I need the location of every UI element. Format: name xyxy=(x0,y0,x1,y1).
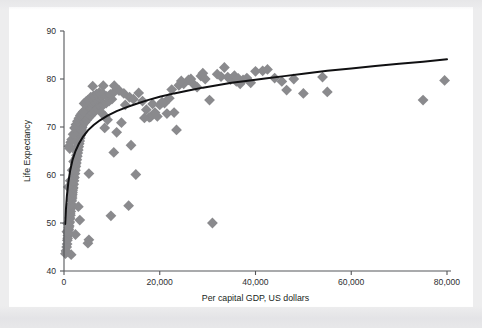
data-point xyxy=(130,169,141,180)
y-tick-label: 40 xyxy=(46,266,56,276)
axis-labels-group: 405060708090020,00040,00060,00080,000Per… xyxy=(22,26,460,303)
data-point xyxy=(116,117,127,128)
data-point xyxy=(74,215,85,226)
data-point xyxy=(83,168,94,179)
data-point xyxy=(162,108,173,119)
y-tick-label: 70 xyxy=(46,122,56,132)
data-point xyxy=(204,95,215,106)
data-point xyxy=(298,88,309,99)
y-tick-label: 90 xyxy=(46,26,56,36)
x-axis-label: Per capital GDP, US dollars xyxy=(202,293,310,303)
data-point xyxy=(418,95,429,106)
x-tick-label: 60,000 xyxy=(338,277,365,287)
data-point xyxy=(126,140,137,151)
y-tick-label: 80 xyxy=(46,74,56,84)
data-point xyxy=(219,62,230,73)
x-tick-label: 40,000 xyxy=(242,277,269,287)
x-tick-label: 0 xyxy=(62,277,67,287)
chart-svg: 405060708090020,00040,00060,00080,000Per… xyxy=(0,0,482,328)
data-point xyxy=(439,75,450,86)
x-tick-label: 80,000 xyxy=(434,277,461,287)
y-tick-label: 50 xyxy=(46,218,56,228)
data-point xyxy=(106,210,117,221)
data-point xyxy=(207,218,218,229)
data-point xyxy=(322,87,333,98)
fit-curve xyxy=(65,59,447,224)
data-point xyxy=(317,72,328,83)
scatter-chart: 405060708090020,00040,00060,00080,000Per… xyxy=(0,0,482,328)
scanned-page: 405060708090020,00040,00060,00080,000Per… xyxy=(0,0,482,328)
data-markers-group xyxy=(60,62,450,260)
data-point xyxy=(171,124,182,135)
data-point xyxy=(111,127,122,138)
y-axis-label: Life Expectancy xyxy=(22,119,32,182)
data-point xyxy=(108,147,119,158)
data-point xyxy=(281,85,292,96)
x-tick-label: 20,000 xyxy=(147,277,174,287)
y-tick-label: 60 xyxy=(46,170,56,180)
data-point xyxy=(123,200,134,211)
